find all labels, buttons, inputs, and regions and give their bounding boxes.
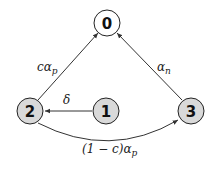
edge-label-1-to-2: δ — [63, 93, 70, 107]
node-2: 2 — [17, 98, 43, 124]
node-0: 0 — [94, 10, 120, 36]
edge-3-to-0 — [117, 33, 182, 100]
node-2-label: 2 — [25, 103, 35, 121]
edge-label-2-to-3: (1 − c)αp — [82, 142, 138, 158]
node-3-label: 3 — [186, 103, 196, 121]
node-3: 3 — [178, 98, 204, 124]
node-0-label: 0 — [102, 15, 112, 33]
edge-label-2-to-0: cαp — [37, 60, 58, 76]
edge-label-3-to-0: αn — [157, 60, 171, 76]
node-1-label: 1 — [101, 103, 111, 121]
node-1: 1 — [93, 98, 119, 124]
state-diagram: cαp αn δ (1 − c)αp 0 2 1 3 — [0, 0, 217, 172]
